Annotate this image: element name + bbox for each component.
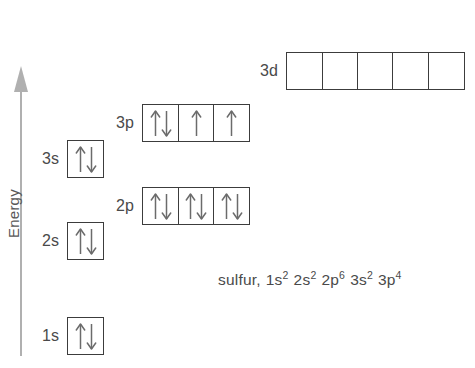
orbital-row-2p: 2p bbox=[116, 187, 250, 225]
spin-up-arrow-icon bbox=[226, 110, 237, 137]
configuration-term-exponent: 6 bbox=[339, 269, 345, 281]
orbital-box-group-1s bbox=[67, 317, 104, 355]
spin-down-arrow-icon bbox=[86, 228, 97, 255]
configuration-term-exponent: 2 bbox=[283, 269, 289, 281]
spin-up-arrow-icon bbox=[150, 193, 161, 220]
orbital-label-3s: 3s bbox=[42, 150, 59, 168]
orbital-box-group-2p bbox=[142, 187, 250, 225]
electron-configuration-caption: sulfur,1s22s22p63s23p4 bbox=[218, 271, 407, 289]
configuration-term-base: 3p bbox=[378, 271, 396, 288]
configuration-term-base: 1s bbox=[266, 271, 283, 288]
orbital-row-1s: 1s bbox=[42, 317, 104, 355]
configuration-term-base: 2p bbox=[321, 271, 339, 288]
electron-spins bbox=[214, 188, 249, 224]
configuration-term: 2p6 bbox=[321, 271, 345, 288]
configuration-term: 3p4 bbox=[378, 271, 402, 288]
spin-up-arrow-icon bbox=[221, 193, 232, 220]
configuration-term-exponent: 2 bbox=[367, 269, 373, 281]
orbital-box[interactable] bbox=[322, 52, 359, 90]
orbital-label-2p: 2p bbox=[116, 197, 134, 215]
configuration-term-base: 2s bbox=[294, 271, 311, 288]
orbital-box[interactable] bbox=[178, 104, 215, 142]
spin-down-arrow-icon bbox=[86, 146, 97, 173]
configuration-term: 1s2 bbox=[266, 271, 289, 288]
orbital-box[interactable] bbox=[286, 52, 323, 90]
orbital-row-2s: 2s bbox=[42, 222, 104, 260]
orbital-box[interactable] bbox=[142, 187, 179, 225]
configuration-term-base: 3s bbox=[350, 271, 367, 288]
electron-spins bbox=[287, 53, 322, 89]
spin-down-arrow-icon bbox=[196, 193, 207, 220]
configuration-term: 2s2 bbox=[294, 271, 317, 288]
orbital-box[interactable] bbox=[213, 187, 250, 225]
caption-element-name: sulfur, bbox=[218, 271, 261, 288]
spin-up-arrow-icon bbox=[75, 228, 86, 255]
orbital-box[interactable] bbox=[178, 187, 215, 225]
spin-down-arrow-icon bbox=[232, 193, 243, 220]
orbital-box[interactable] bbox=[392, 52, 429, 90]
spin-down-arrow-icon bbox=[161, 110, 172, 137]
spin-down-arrow-icon bbox=[161, 193, 172, 220]
orbital-box[interactable] bbox=[67, 140, 104, 178]
orbital-box-group-3s bbox=[67, 140, 104, 178]
spin-up-arrow-icon bbox=[185, 193, 196, 220]
orbital-box[interactable] bbox=[67, 317, 104, 355]
orbital-label-2s: 2s bbox=[42, 232, 59, 250]
orbital-row-3p: 3p bbox=[116, 104, 250, 142]
spin-up-arrow-icon bbox=[75, 323, 86, 350]
orbital-box[interactable] bbox=[67, 222, 104, 260]
spin-down-arrow-icon bbox=[86, 323, 97, 350]
orbital-label-1s: 1s bbox=[42, 327, 59, 345]
electron-spins bbox=[143, 188, 178, 224]
electron-spins bbox=[393, 53, 428, 89]
configuration-terms: 1s22s22p63s23p4 bbox=[266, 271, 407, 288]
orbital-box[interactable] bbox=[142, 104, 179, 142]
configuration-term-exponent: 2 bbox=[310, 269, 316, 281]
orbital-row-3s: 3s bbox=[42, 140, 104, 178]
electron-spins bbox=[68, 223, 103, 259]
orbital-box[interactable] bbox=[213, 104, 250, 142]
electron-spins bbox=[143, 105, 178, 141]
electron-spins bbox=[429, 53, 464, 89]
orbital-box-group-3p bbox=[142, 104, 250, 142]
electron-spins bbox=[323, 53, 358, 89]
orbital-energy-diagram: Energy 3d3p3s2p2s1s sulfur,1s22s22p63s23… bbox=[0, 0, 475, 368]
spin-up-arrow-icon bbox=[191, 110, 202, 137]
spin-up-arrow-icon bbox=[75, 146, 86, 173]
orbital-row-3d: 3d bbox=[260, 52, 465, 90]
orbital-box[interactable] bbox=[428, 52, 465, 90]
electron-spins bbox=[179, 105, 214, 141]
orbital-label-3d: 3d bbox=[260, 62, 278, 80]
electron-spins bbox=[358, 53, 393, 89]
orbital-label-3p: 3p bbox=[116, 114, 134, 132]
orbital-box[interactable] bbox=[357, 52, 394, 90]
spin-up-arrow-icon bbox=[150, 110, 161, 137]
electron-spins bbox=[68, 318, 103, 354]
electron-spins bbox=[179, 188, 214, 224]
configuration-term: 3s2 bbox=[350, 271, 373, 288]
electron-spins bbox=[214, 105, 249, 141]
orbital-box-group-2s bbox=[67, 222, 104, 260]
electron-spins bbox=[68, 141, 103, 177]
configuration-term-exponent: 4 bbox=[396, 269, 402, 281]
energy-axis-label: Energy bbox=[5, 179, 22, 249]
orbital-box-group-3d bbox=[286, 52, 465, 90]
